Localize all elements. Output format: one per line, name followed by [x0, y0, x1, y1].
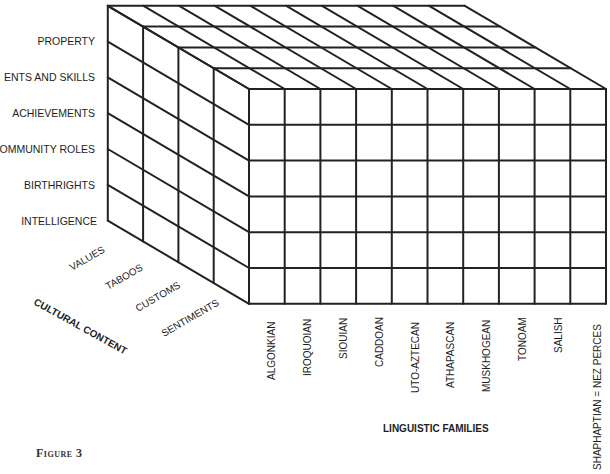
- depth-axis-title: CULTURAL CONTENT: [32, 296, 129, 356]
- col-label-iroquoian: IROQUOIAN: [302, 319, 313, 376]
- col-label-athapascan: ATHAPASCAN: [445, 322, 456, 388]
- row-label-community-roles: OMMUNITY ROLES: [0, 143, 95, 155]
- row-label-property: PROPERTY: [37, 35, 95, 47]
- row-label-talents-and-skills: ENTS AND SKILLS: [4, 71, 95, 83]
- col-label-muskhogean: MUSKHOGEAN: [481, 320, 492, 392]
- horizontal-axis-title: LINGUISTIC FAMILIES: [383, 423, 489, 434]
- figure-caption: Figure 3: [36, 446, 83, 461]
- col-label-tonoam: TONOAM: [517, 317, 528, 361]
- row-label-intelligence: INTELLIGENCE: [21, 215, 97, 227]
- row-label-achievements: ACHIEVEMENTS: [12, 107, 95, 119]
- col-label-shaphaptian: SHAPHAPTIAN = NEZ PERCES: [592, 324, 603, 470]
- depth-label-sentiments: SENTIMENTS: [160, 297, 222, 339]
- col-label-siouian: SIOUIAN: [338, 318, 349, 359]
- row-label-birthrights: BIRTHRIGHTS: [24, 179, 95, 191]
- depth-label-customs: CUSTOMS: [134, 279, 183, 314]
- cultural-linguistic-cube: PROPERTY ENTS AND SKILLS ACHIEVEMENTS OM…: [0, 0, 610, 474]
- vertical-axis-labels: PROPERTY ENTS AND SKILLS ACHIEVEMENTS OM…: [0, 35, 97, 227]
- depth-label-taboos: TABOOS: [104, 262, 145, 292]
- cube-diagram: PROPERTY ENTS AND SKILLS ACHIEVEMENTS OM…: [0, 0, 610, 474]
- depth-label-values: VALUES: [68, 244, 107, 273]
- depth-axis-labels: VALUES TABOOS CUSTOMS SENTIMENTS CULTURA…: [32, 244, 221, 357]
- col-label-salish: SALISH: [553, 317, 564, 353]
- col-label-uto-aztecan: UTO-AZTECAN: [410, 322, 421, 393]
- horizontal-axis-labels: ALGONKIAN IROQUOIAN SIOUIAN CADDOAN UTO-…: [266, 317, 603, 470]
- col-label-algonkian: ALGONKIAN: [266, 322, 277, 380]
- col-label-caddoan: CADDOAN: [374, 317, 385, 367]
- cube-grid-lines: [108, 6, 606, 304]
